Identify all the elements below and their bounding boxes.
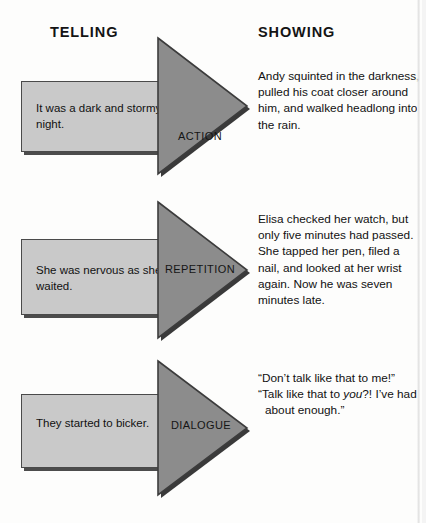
showing-text: “Don’t talk like that to me!” “Talk like… <box>258 370 424 419</box>
telling-text: They started to bicker. <box>36 415 165 431</box>
showing-quote-line-2: “Talk like that to you?! I’ve had about … <box>258 386 424 418</box>
scan-artifact-line <box>417 0 420 523</box>
showing-paragraph: Andy squinted in the darkness, pulled hi… <box>258 68 424 133</box>
showing-quote-text-2a: “Talk like that to <box>258 387 343 401</box>
diagram-row: She was nervous as she waited. REPETITIO… <box>0 194 426 354</box>
arrow-label: DIALOGUE <box>155 419 247 431</box>
showing-text: Andy squinted in the darkness, pulled hi… <box>258 68 424 133</box>
arrow-label: REPETITION <box>150 263 250 275</box>
diagram-row: It was a dark and stormy night. ACTION A… <box>0 30 426 190</box>
telling-text: It was a dark and stormy night. <box>36 100 165 132</box>
showing-quote-emphasis: you <box>343 387 362 401</box>
showing-paragraph: Elisa checked her watch, but only five m… <box>258 211 424 308</box>
showing-text: Elisa checked her watch, but only five m… <box>258 211 424 308</box>
arrow-head-icon <box>150 30 255 182</box>
arrow-label: ACTION <box>160 130 240 142</box>
showing-quote-text-1: “Don’t talk like that to me!” <box>258 371 395 385</box>
showing-quote-line-1: “Don’t talk like that to me!” <box>258 370 424 386</box>
diagram-row: They started to bicker. DIALOGUE “Don’t … <box>0 353 426 503</box>
telling-text: She was nervous as she waited. <box>36 262 165 294</box>
scan-artifact-margin <box>422 0 426 523</box>
